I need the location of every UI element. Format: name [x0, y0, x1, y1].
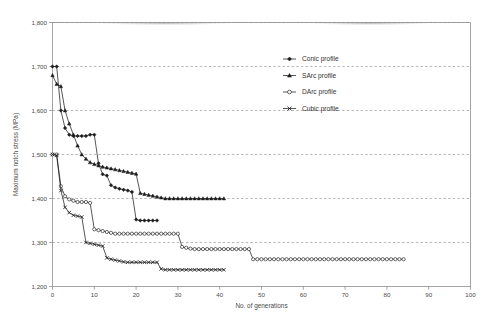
data-point	[114, 232, 117, 235]
data-point	[310, 258, 313, 261]
data-point	[80, 134, 84, 138]
data-point	[222, 247, 225, 250]
data-point	[105, 230, 108, 233]
data-point	[302, 258, 305, 261]
xtick-label-100: 100	[465, 291, 476, 298]
data-point	[331, 258, 334, 261]
data-point	[147, 219, 151, 223]
data-point	[155, 219, 159, 223]
data-point	[143, 219, 147, 223]
data-point	[109, 184, 113, 188]
xtick-label-50: 50	[258, 291, 265, 298]
data-point	[59, 84, 63, 87]
data-point	[264, 258, 267, 261]
notch-stress-convergence-chart: 1,2001,3001,4001,5001,6001,7001,80001020…	[0, 0, 498, 327]
data-point	[293, 258, 296, 261]
data-point	[189, 247, 192, 250]
data-point	[134, 232, 137, 235]
ytick-label-1500: 1,500	[32, 151, 48, 158]
xtick-label-20: 20	[133, 291, 140, 298]
data-point	[339, 258, 342, 261]
data-point	[67, 122, 71, 125]
ytick-label-1400: 1,400	[32, 195, 48, 202]
data-point	[348, 258, 351, 261]
data-point	[243, 247, 246, 250]
data-point	[59, 109, 63, 113]
x-axis-title: No. of generations	[235, 302, 287, 310]
data-point	[84, 134, 88, 138]
data-point	[281, 258, 284, 261]
data-point	[130, 232, 133, 235]
data-point	[139, 232, 142, 235]
legend-item-sarc-profile[interactable]: SArc profile	[283, 72, 336, 80]
data-point	[252, 258, 255, 261]
ytick-label-1700: 1,700	[32, 63, 48, 70]
data-point	[176, 232, 179, 235]
data-point	[63, 195, 66, 198]
data-point	[101, 173, 105, 177]
series-line	[53, 67, 158, 221]
data-point	[67, 133, 71, 137]
xtick-label-70: 70	[342, 291, 349, 298]
series-cubic-profile	[51, 153, 226, 272]
ytick-label-1300: 1,300	[32, 239, 48, 246]
data-point	[360, 258, 363, 261]
data-point	[364, 258, 367, 261]
data-point	[402, 258, 405, 261]
data-point	[93, 228, 96, 231]
legend-marker-circle-open	[288, 90, 292, 94]
data-point	[239, 247, 242, 250]
legend-item-darc-profile[interactable]: DArc profile	[283, 88, 337, 96]
data-point	[180, 245, 183, 248]
data-point	[55, 65, 59, 69]
series-line	[53, 155, 404, 260]
data-point	[298, 258, 301, 261]
data-point	[51, 65, 55, 69]
legend-item-conic-profile[interactable]: Conic profile	[283, 55, 339, 63]
data-point	[226, 247, 229, 250]
data-point	[126, 189, 130, 193]
data-point	[139, 191, 143, 194]
data-point	[130, 190, 134, 194]
chart-legend[interactable]: Conic profileSArc profileDArc profileCub…	[283, 55, 339, 113]
data-point	[206, 247, 209, 250]
data-point	[327, 258, 330, 261]
data-point	[389, 258, 392, 261]
data-point	[160, 232, 163, 235]
data-point	[231, 247, 234, 250]
series-line	[53, 155, 224, 270]
gridlines	[53, 23, 471, 243]
xtick-label-30: 30	[174, 291, 181, 298]
data-point	[126, 232, 129, 235]
data-point	[289, 258, 292, 261]
axis-labels: 1,2001,3001,4001,5001,6001,7001,80001020…	[12, 19, 476, 310]
data-point	[335, 258, 338, 261]
data-point	[122, 188, 126, 192]
data-point	[210, 247, 213, 250]
data-point	[272, 258, 275, 261]
legend-marker-diamond	[288, 57, 292, 61]
data-point	[51, 73, 55, 76]
data-point	[168, 232, 171, 235]
ytick-label-1200: 1,200	[32, 283, 48, 290]
data-point	[122, 232, 125, 235]
data-point	[72, 133, 76, 136]
ytick-label-1600: 1,600	[32, 107, 48, 114]
data-point	[260, 258, 263, 261]
legend-item-cubic-profile[interactable]: Cubic profile	[283, 105, 339, 113]
data-point	[201, 247, 204, 250]
data-point	[143, 232, 146, 235]
data-point	[151, 219, 155, 223]
data-point	[193, 247, 196, 250]
data-point	[105, 174, 109, 178]
data-point	[155, 232, 158, 235]
data-point	[139, 219, 143, 223]
data-point	[314, 258, 317, 261]
xtick-label-60: 60	[300, 291, 307, 298]
xtick-label-10: 10	[91, 291, 98, 298]
data-point	[147, 232, 150, 235]
data-point	[93, 133, 97, 137]
data-point	[72, 199, 75, 202]
data-point	[68, 198, 71, 201]
data-point	[218, 247, 221, 250]
